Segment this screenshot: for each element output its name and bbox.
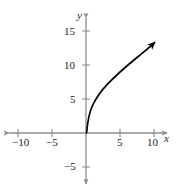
y-tick-label-5: 5: [70, 94, 76, 105]
x-tick-label-10: 10: [147, 137, 158, 148]
y-tick-label-15: 15: [64, 26, 75, 37]
y-tick-label-neg5: −5: [64, 161, 76, 172]
x-axis-label: x: [164, 133, 169, 144]
x-tick-label-5: 5: [117, 137, 123, 148]
coordinate-plane-svg: [0, 0, 178, 191]
y-axis-label: y: [77, 10, 82, 21]
y-tick-label-10: 10: [64, 60, 75, 71]
x-tick-label-neg10: −10: [12, 137, 29, 148]
function-curve: [87, 43, 155, 133]
graph-figure: −10 −5 5 10 15 10 5 −5 y x: [0, 0, 178, 191]
y-axis: [82, 18, 90, 184]
x-axis: [9, 129, 167, 137]
x-tick-label-neg5: −5: [46, 137, 58, 148]
